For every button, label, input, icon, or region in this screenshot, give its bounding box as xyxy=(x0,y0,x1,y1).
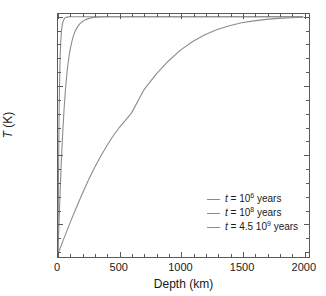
y-tick-right xyxy=(304,155,309,156)
x-tick-label: 1000 xyxy=(168,261,192,273)
y-tick-right xyxy=(306,197,309,198)
x-tick-top xyxy=(157,14,158,17)
chart-figure: 0500100015002000 500100015002000 Depth (… xyxy=(0,0,326,296)
x-tick-top xyxy=(268,14,269,17)
y-tick xyxy=(58,141,61,142)
y-tick-right xyxy=(306,211,309,212)
legend-label: t = 4.5 109 years xyxy=(225,221,298,233)
legend-label: t = 108 years xyxy=(225,207,281,219)
y-tick xyxy=(58,17,63,18)
x-tick-top xyxy=(70,14,71,17)
legend-line-swatch xyxy=(207,199,220,200)
y-tick xyxy=(58,155,63,156)
x-tick-top xyxy=(218,14,219,17)
y-tick-right xyxy=(306,183,309,184)
x-tick xyxy=(206,254,207,257)
x-tick xyxy=(169,254,170,257)
x-tick-label: 500 xyxy=(110,261,128,273)
legend-item: t = 4.5 109 years xyxy=(207,221,298,233)
y-tick xyxy=(58,252,61,253)
y-axis-label: T (K) xyxy=(1,95,15,155)
x-tick xyxy=(218,254,219,257)
legend-line-swatch xyxy=(207,227,220,228)
x-tick xyxy=(280,254,281,257)
legend-line-swatch xyxy=(207,213,220,214)
y-tick-right xyxy=(304,86,309,87)
legend-label: t = 106 years xyxy=(225,193,281,205)
y-tick-right xyxy=(306,128,309,129)
y-tick-right xyxy=(304,224,309,225)
y-tick xyxy=(58,31,61,32)
legend-item: t = 108 years xyxy=(207,207,298,219)
x-tick xyxy=(70,254,71,257)
legend-item: t = 106 years xyxy=(207,193,298,205)
x-tick-label: 2000 xyxy=(292,261,316,273)
x-tick-top xyxy=(132,14,133,17)
y-tick-right xyxy=(306,72,309,73)
y-tick xyxy=(58,238,61,239)
x-tick-top xyxy=(194,14,195,17)
x-tick-top xyxy=(206,14,207,17)
y-tick xyxy=(58,114,61,115)
x-tick xyxy=(144,254,145,257)
x-tick xyxy=(120,252,121,257)
y-tick xyxy=(58,44,61,45)
x-tick-top xyxy=(243,14,244,19)
x-tick-top xyxy=(144,14,145,17)
x-tick-top xyxy=(292,14,293,17)
x-tick-top xyxy=(169,14,170,17)
x-tick xyxy=(157,254,158,257)
y-tick xyxy=(58,169,61,170)
chart-legend: t = 106 yearst = 108 yearst = 4.5 109 ye… xyxy=(207,193,298,233)
x-tick xyxy=(268,254,269,257)
y-tick-right xyxy=(306,238,309,239)
y-tick xyxy=(58,197,61,198)
x-tick xyxy=(132,254,133,257)
x-tick xyxy=(181,252,182,257)
y-tick xyxy=(58,224,63,225)
x-tick-top xyxy=(120,14,121,19)
x-tick xyxy=(107,254,108,257)
y-tick-right xyxy=(306,141,309,142)
x-tick-top xyxy=(107,14,108,17)
y-tick xyxy=(58,58,61,59)
y-tick-right xyxy=(306,44,309,45)
x-tick-top xyxy=(255,14,256,17)
x-tick xyxy=(231,254,232,257)
x-tick xyxy=(83,254,84,257)
x-axis-label: Depth (km) xyxy=(57,277,310,291)
x-tick xyxy=(243,252,244,257)
y-tick-right xyxy=(306,31,309,32)
x-tick xyxy=(292,254,293,257)
y-tick xyxy=(58,211,61,212)
y-tick xyxy=(58,183,61,184)
y-tick-right xyxy=(306,58,309,59)
y-tick xyxy=(58,72,61,73)
y-tick-right xyxy=(304,17,309,18)
x-tick-label: 1500 xyxy=(230,261,254,273)
y-tick-right xyxy=(306,252,309,253)
x-tick xyxy=(95,254,96,257)
y-tick xyxy=(58,100,61,101)
y-tick-right xyxy=(306,169,309,170)
x-tick xyxy=(255,254,256,257)
x-tick-top xyxy=(181,14,182,19)
x-tick-top xyxy=(95,14,96,17)
y-tick xyxy=(58,86,63,87)
x-tick-top xyxy=(280,14,281,17)
y-tick xyxy=(58,128,61,129)
y-tick-right xyxy=(306,100,309,101)
x-tick-label: 0 xyxy=(54,261,60,273)
x-tick-top xyxy=(231,14,232,17)
x-tick-top xyxy=(83,14,84,17)
x-tick xyxy=(194,254,195,257)
y-tick-right xyxy=(306,114,309,115)
